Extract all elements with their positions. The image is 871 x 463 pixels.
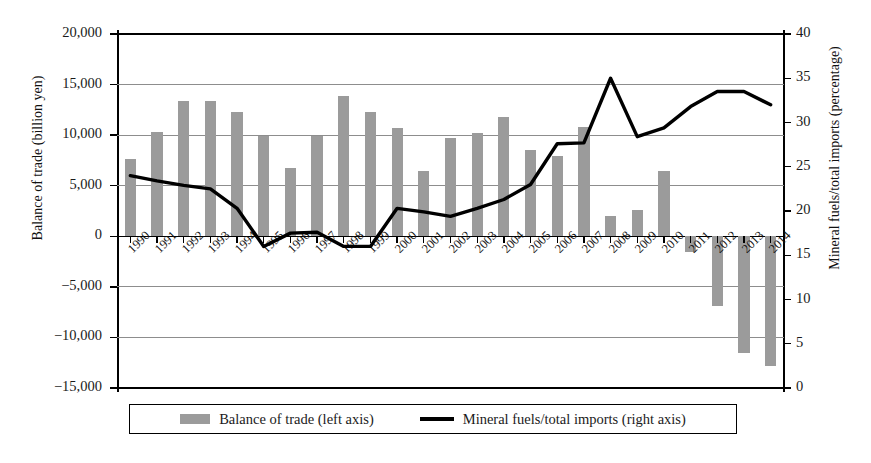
right-tick-label: 5 [796,334,852,351]
left-axis-title: Balance of trade (billion yen) [30,28,46,288]
bar [765,236,776,365]
left-tick [110,286,117,287]
left-tick [110,84,117,85]
right-tick-label: 30 [796,113,852,130]
bar [231,112,242,236]
right-tick-label: 0 [796,378,852,395]
left-tick-label: 15,000 [28,75,102,92]
right-tick [784,166,791,167]
bar [365,112,376,236]
bar [578,127,589,236]
bar [418,171,429,237]
line-swatch-icon [420,417,454,420]
left-tick-label: 20,000 [28,24,102,41]
plot-frame-top [117,33,784,35]
bar [658,171,669,237]
bar [605,216,616,236]
bar [552,156,563,236]
right-tick-label: 15 [796,245,852,262]
legend-label-mineral-fuels: Mineral fuels/total imports (right axis) [463,411,686,428]
right-tick-label: 20 [796,201,852,218]
bar [178,101,189,237]
bar [392,128,403,236]
bar [205,101,216,237]
chart-legend: Balance of trade (left axis) Mineral fue… [129,404,737,434]
plot-frame-bottom [117,387,784,389]
gridline [117,286,784,287]
bar [125,159,136,236]
gridline [117,135,784,136]
bar [525,150,536,236]
chart-root: Balance of trade (billion yen) Mineral f… [0,0,871,463]
left-tick [110,236,117,237]
right-tick-label: 35 [796,68,852,85]
bar [632,210,643,236]
right-tick [784,387,791,388]
right-tick [784,78,791,79]
right-tick [784,343,791,344]
bar [472,133,483,236]
legend-label-balance-of-trade: Balance of trade (left axis) [219,411,374,428]
gridline [117,337,784,338]
bar [445,138,456,236]
left-tick [110,185,117,186]
left-tick-label: 10,000 [28,125,102,142]
right-tick [784,299,791,300]
right-tick [784,210,791,211]
right-tick-label: 40 [796,24,852,41]
gridline [117,84,784,85]
left-tick [110,134,117,135]
legend-item-balance-of-trade: Balance of trade (left axis) [180,411,374,428]
left-tick [110,387,117,388]
right-tick [784,122,791,123]
right-tick [784,33,791,34]
left-tick [110,33,117,34]
left-tick-label: −15,000 [28,378,102,395]
legend-item-mineral-fuels: Mineral fuels/total imports (right axis) [420,411,686,428]
bar [285,168,296,237]
left-tick-label: −5,000 [28,277,102,294]
left-tick-label: 5,000 [28,176,102,193]
bar [151,132,162,236]
bar [498,117,509,236]
x-tick-label: 2011 [686,229,714,257]
left-tick-label: 0 [28,226,102,243]
left-tick-label: −10,000 [28,327,102,344]
bar-swatch-icon [180,414,210,424]
left-tick [110,337,117,338]
bar [311,136,322,236]
right-tick-label: 10 [796,290,852,307]
right-tick [784,255,791,256]
right-tick-label: 25 [796,157,852,174]
bar [258,136,269,236]
bar [338,96,349,237]
